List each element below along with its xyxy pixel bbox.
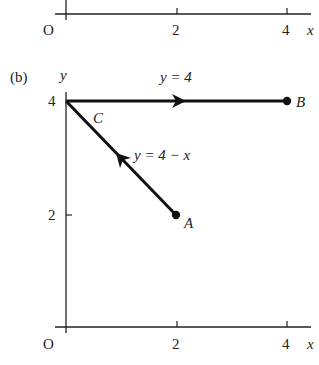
y-tick-label-4: 4 [48, 93, 56, 109]
point-b-label: B [296, 94, 305, 110]
top-fragment: O 2 4 x [43, 0, 314, 38]
y-tick-label-2: 2 [48, 207, 56, 223]
x-tick-label-2: 2 [172, 336, 180, 352]
part-label: (b) [10, 69, 28, 86]
origin-label: O [43, 336, 54, 352]
top-x-tick-label-4: 4 [282, 22, 290, 38]
point-c-label: C [93, 110, 104, 126]
point-a-marker [172, 211, 180, 219]
top-x-axis-label: x [306, 22, 314, 38]
equation-cb-label: y = 4 [158, 69, 192, 85]
top-x-tick-label-2: 2 [172, 22, 180, 38]
part-b-diagram: (b) y 4 2 O 2 4 x B y = 4 A y = 4 − x C [10, 67, 314, 352]
x-tick-label-4: 4 [282, 336, 290, 352]
x-axis-label: x [306, 336, 314, 352]
point-b-marker [283, 97, 291, 105]
top-origin-label: O [43, 22, 54, 38]
point-a-label: A [183, 215, 194, 231]
y-axis-label: y [58, 67, 67, 83]
diagram-canvas: O 2 4 x (b) y 4 2 O 2 4 x B y = 4 A y = … [0, 0, 319, 365]
equation-ac-label: y = 4 − x [132, 147, 190, 163]
